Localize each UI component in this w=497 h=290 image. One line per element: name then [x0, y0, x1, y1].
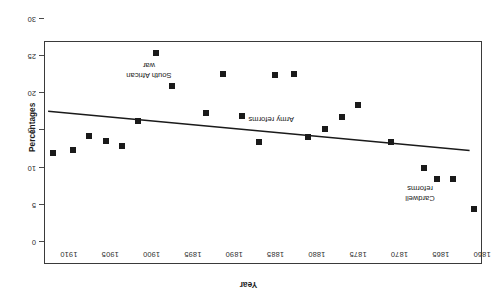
data-point — [272, 72, 278, 78]
data-point — [291, 71, 297, 77]
data-point — [86, 133, 92, 139]
data-point — [388, 139, 394, 145]
chart-annotation: Army reforms — [248, 113, 294, 123]
data-point — [322, 126, 328, 132]
chart-annotation: South African war — [126, 60, 171, 81]
data-point — [421, 165, 427, 171]
data-point — [450, 176, 456, 182]
data-point — [135, 118, 141, 124]
data-point — [119, 143, 125, 149]
data-point — [50, 150, 56, 156]
chart-annotation: Cardwell reforms — [405, 183, 435, 204]
data-point — [355, 102, 361, 108]
data-point — [169, 83, 175, 89]
data-point — [220, 71, 226, 77]
data-point — [471, 206, 477, 212]
data-point — [339, 114, 345, 120]
data-point — [256, 139, 262, 145]
data-point — [434, 176, 440, 182]
data-point — [239, 113, 245, 119]
data-point — [70, 147, 76, 153]
data-point — [103, 138, 109, 144]
data-point — [153, 50, 159, 56]
data-point — [203, 110, 209, 116]
data-point — [305, 134, 311, 140]
